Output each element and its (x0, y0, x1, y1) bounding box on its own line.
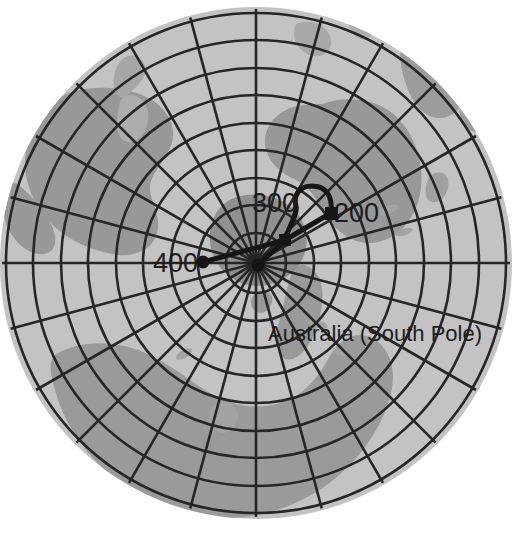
annotation-day-200: 200 (334, 198, 379, 229)
region-label: Australia (South Pole) (268, 321, 482, 347)
polar-map-figure: 200 300 400 Australia (South Pole) (0, 0, 518, 536)
annotation-day-300: 300 (252, 188, 297, 219)
polar-stereographic-map (0, 0, 518, 536)
marker-day-400 (197, 256, 210, 269)
annotation-day-400: 400 (153, 248, 198, 279)
marker-pole-center (252, 259, 265, 272)
marker-day-300 (279, 234, 291, 246)
